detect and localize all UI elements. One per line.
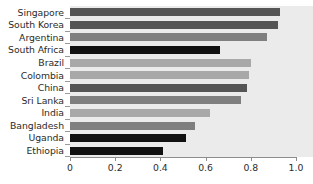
category-label-row: South Korea [0, 19, 64, 32]
bar [70, 71, 249, 79]
bar-row [70, 94, 313, 107]
bar [70, 147, 163, 155]
bars-layer [70, 6, 313, 157]
x-tick-mark [160, 157, 161, 161]
x-tick-label: 0.8 [243, 163, 258, 172]
category-label-row: Uganda [0, 132, 64, 145]
category-label: Colombia [21, 71, 64, 80]
category-label: Sri Lanka [22, 96, 65, 105]
bar-row [70, 19, 313, 32]
horizontal-bar-chart: SingaporeSouth KoreaArgentinaSouth Afric… [0, 0, 313, 184]
category-label-row: South Africa [0, 44, 64, 57]
category-label: Singapore [18, 8, 64, 17]
x-tick-mark [70, 157, 71, 161]
x-tick-label: 1.0 [289, 163, 304, 172]
bar-row [70, 56, 313, 69]
x-tick-label: 0 [67, 163, 73, 172]
bar [70, 59, 251, 67]
category-label-row: Bangladesh [0, 119, 64, 132]
bar-row [70, 44, 313, 57]
category-label: Ethiopia [27, 146, 64, 155]
bar-row [70, 81, 313, 94]
bar [70, 96, 241, 104]
category-label-row: Ethiopia [0, 144, 64, 157]
plot-area [70, 6, 313, 157]
category-label: Brazil [38, 58, 64, 67]
bar-row [70, 119, 313, 132]
bar [70, 33, 267, 41]
bar-row [70, 31, 313, 44]
x-tick-mark [251, 157, 252, 161]
bar [70, 122, 195, 130]
category-label-row: Sri Lanka [0, 94, 64, 107]
category-label: Uganda [28, 133, 64, 142]
category-label-row: India [0, 107, 64, 120]
x-tick-mark [206, 157, 207, 161]
x-tick-label: 0.6 [198, 163, 213, 172]
bar-row [70, 6, 313, 19]
bar [70, 46, 220, 54]
category-label: China [38, 83, 64, 92]
bar-row [70, 107, 313, 120]
category-label: South Korea [8, 20, 64, 29]
bar [70, 8, 280, 16]
bar [70, 109, 210, 117]
x-axis-line [70, 157, 296, 158]
bar [70, 21, 278, 29]
category-label-row: Singapore [0, 6, 64, 19]
bar-row [70, 132, 313, 145]
category-label: India [41, 108, 64, 117]
x-tick-mark [115, 157, 116, 161]
category-label: Bangladesh [10, 121, 64, 130]
bar-row [70, 69, 313, 82]
category-label-row: Colombia [0, 69, 64, 82]
category-label: Argentina [19, 33, 64, 42]
bar-row [70, 144, 313, 157]
category-label-row: China [0, 81, 64, 94]
x-tick-label: 0.4 [153, 163, 168, 172]
category-label: South Africa [8, 45, 64, 54]
bar [70, 134, 186, 142]
x-tick-label: 0.2 [108, 163, 123, 172]
category-label-row: Argentina [0, 31, 64, 44]
category-label-row: Brazil [0, 56, 64, 69]
category-axis-labels: SingaporeSouth KoreaArgentinaSouth Afric… [0, 6, 64, 157]
bar [70, 84, 247, 92]
x-tick-mark [296, 157, 297, 161]
